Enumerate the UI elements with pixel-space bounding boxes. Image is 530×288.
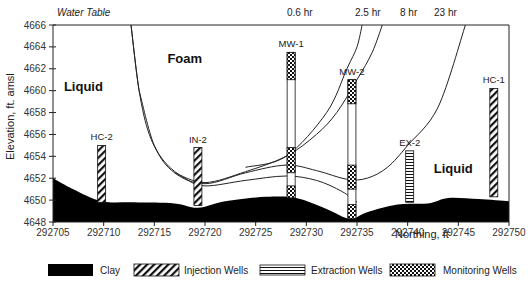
time-label: 2.5 hr — [355, 7, 381, 18]
plot-area: HC-2IN-2MW-1MW-2EX-2HC-1LiquidFoamLiquid — [53, 25, 509, 222]
injection-swatch — [134, 264, 179, 276]
well-mw-1: MW-1 — [279, 38, 304, 198]
legend-label-extraction: Extraction Wells — [311, 265, 383, 276]
well-label: MW-2 — [339, 66, 364, 77]
monitoring-screen — [287, 148, 295, 173]
well-casing — [490, 88, 498, 196]
well-in-2: IN-2 — [189, 134, 207, 206]
region-label-liquid: Liquid — [434, 161, 473, 176]
well-casing — [98, 145, 106, 202]
legend: Clay Injection Wells Extraction Wells Mo… — [48, 264, 517, 276]
monitoring-screen — [348, 165, 356, 189]
monitoring-screen — [287, 186, 295, 198]
clay-swatch — [48, 264, 93, 276]
y-tick-label: 4654 — [24, 151, 47, 162]
legend-label-injection: Injection Wells — [184, 265, 248, 276]
well-casing — [406, 151, 414, 202]
x-tick-label: 292735 — [340, 227, 374, 238]
y-tick-label: 4666 — [24, 20, 47, 31]
y-tick-label: 4664 — [24, 41, 47, 52]
time-label: 23 hr — [434, 7, 457, 18]
y-tick-label: 4658 — [24, 107, 47, 118]
y-tick-label: 4656 — [24, 129, 47, 140]
legend-item-clay: Clay — [48, 264, 120, 276]
well-hc-2: HC-2 — [91, 131, 113, 202]
well-label: EX-2 — [399, 137, 420, 148]
legend-label-monitoring: Monitoring Wells — [443, 265, 517, 276]
water-table-label: Water Table — [57, 7, 111, 18]
monitoring-screen — [287, 52, 295, 79]
legend-item-extraction: Extraction Wells — [260, 265, 383, 276]
region-label-liquid: Liquid — [64, 79, 103, 94]
well-casing — [194, 148, 202, 206]
x-axis-label: Northing, ft — [395, 228, 449, 240]
monitoring-swatch — [390, 264, 435, 276]
x-tick-label: 292725 — [239, 227, 273, 238]
well-ex-2: EX-2 — [399, 137, 420, 202]
time-label: 0.6 hr — [287, 7, 313, 18]
time-label: 8 hr — [400, 7, 418, 18]
well-mw-2: MW-2 — [339, 66, 364, 219]
front-curve-0.6-hr — [131, 25, 357, 202]
y-tick-label: 4662 — [24, 63, 47, 74]
legend-label-clay: Clay — [100, 265, 120, 276]
monitoring-screen — [348, 204, 356, 218]
well-label: HC-1 — [483, 74, 505, 85]
monitoring-screen — [348, 80, 356, 104]
x-tick-label: 292730 — [290, 227, 324, 238]
x-tick-label: 292705 — [36, 227, 70, 238]
well-label: HC-2 — [91, 131, 113, 142]
y-axis-label: Elevation, ft. amsl — [4, 73, 16, 160]
well-label: IN-2 — [189, 134, 207, 145]
front-curve-23-hr — [246, 25, 363, 167]
well-label: MW-1 — [279, 38, 304, 49]
extraction-swatch — [260, 265, 305, 275]
foam-boundary-left — [131, 25, 139, 91]
well-hc-1: HC-1 — [483, 74, 505, 196]
region-label-foam: Foam — [167, 51, 202, 66]
x-tick-label: 292720 — [188, 227, 222, 238]
clay-layer — [53, 178, 509, 222]
y-tick-label: 4650 — [24, 195, 47, 206]
x-tick-label: 292715 — [138, 227, 172, 238]
legend-item-injection: Injection Wells — [134, 264, 248, 276]
x-tick-label: 292710 — [87, 227, 121, 238]
cross-section-chart: HC-2IN-2MW-1MW-2EX-2HC-1LiquidFoamLiquid… — [0, 0, 530, 288]
y-tick-label: 4660 — [24, 85, 47, 96]
y-tick-label: 4648 — [24, 217, 47, 228]
legend-item-monitoring: Monitoring Wells — [390, 264, 517, 276]
x-tick-label: 292750 — [492, 227, 526, 238]
y-tick-label: 4652 — [24, 173, 47, 184]
